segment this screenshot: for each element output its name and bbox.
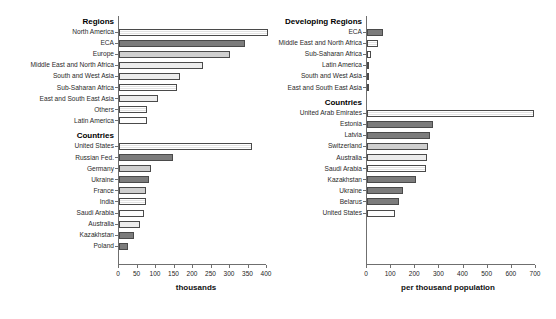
bar-label: Poland: [0, 242, 114, 249]
bar: [119, 176, 149, 183]
x-axis-tick: [438, 265, 439, 268]
y-axis-tick: [363, 65, 366, 66]
y-axis-tick: [115, 65, 118, 66]
bar-label: Australia: [182, 154, 362, 161]
y-axis-tick: [363, 87, 366, 88]
bar-label: Middle East and North Africa: [0, 61, 114, 68]
x-axis-title: per thousand population: [378, 283, 518, 292]
group-title-regions: Regions: [0, 18, 114, 26]
bar: [119, 73, 180, 80]
bar: [367, 73, 369, 80]
x-axis-tick: [211, 265, 212, 268]
bar-label: United States: [182, 209, 362, 216]
x-axis-tick: [118, 265, 119, 268]
y-axis-tick: [363, 32, 366, 33]
bar-label: Ukraine: [0, 176, 114, 183]
x-axis-tick-label: 600: [499, 270, 523, 277]
y-axis-tick: [115, 76, 118, 77]
y-axis-tick: [115, 179, 118, 180]
bar: [119, 165, 151, 172]
bar: [367, 154, 427, 161]
bar-label: Saudi Arabia: [0, 209, 114, 216]
bar-label: India: [0, 198, 114, 205]
bar-label: Kazakhstan: [0, 231, 114, 238]
bar-label: Middle East and North Africa: [182, 39, 362, 46]
chart-panel-right: 0100200300400500600700per thousand popul…: [286, 0, 556, 319]
bar: [119, 232, 134, 239]
bar-label: Latin America: [182, 61, 362, 68]
x-axis-tick: [366, 265, 367, 268]
x-axis-tick: [390, 265, 391, 268]
bar: [367, 29, 383, 36]
bar-label: Russian Fed.: [0, 154, 114, 161]
bar: [367, 187, 403, 194]
bar: [367, 51, 371, 58]
bar: [367, 121, 433, 128]
bar: [119, 210, 144, 217]
x-axis-tick: [511, 265, 512, 268]
y-axis-tick: [115, 246, 118, 247]
y-axis-tick: [363, 201, 366, 202]
y-axis-tick: [363, 124, 366, 125]
x-axis-tick: [248, 265, 249, 268]
figure-root: 050100150200250300350400thousandsRegions…: [0, 0, 556, 319]
bar-label: Europe: [0, 50, 114, 57]
y-axis-tick: [363, 168, 366, 169]
y-axis-tick: [363, 213, 366, 214]
x-axis-line: [366, 264, 535, 265]
y-axis-tick: [115, 54, 118, 55]
bar: [119, 187, 146, 194]
x-axis-tick-label: 400: [254, 270, 278, 277]
bar-label: Kazakhstan: [182, 176, 362, 183]
bar-label: United Arab Emirates: [182, 109, 362, 116]
bar: [367, 132, 430, 139]
bar: [367, 110, 534, 117]
y-axis-tick: [115, 146, 118, 147]
x-axis-tick: [155, 265, 156, 268]
y-axis-tick: [115, 168, 118, 169]
y-axis-tick: [115, 120, 118, 121]
x-axis-tick-label: 700: [523, 270, 547, 277]
bar-label: Ukraine: [182, 187, 362, 194]
x-axis-tick-label: 200: [402, 270, 426, 277]
x-axis-tick: [535, 265, 536, 268]
bar: [119, 221, 140, 228]
bar-label: United States: [0, 142, 114, 149]
bar-label: East and South East Asia: [182, 84, 362, 91]
y-axis-tick: [363, 146, 366, 147]
bar: [119, 198, 146, 205]
bar: [119, 117, 147, 124]
bar-label: Latvia: [182, 131, 362, 138]
y-axis-tick: [115, 109, 118, 110]
y-axis-tick: [115, 87, 118, 88]
bar: [367, 210, 395, 217]
bar: [367, 143, 428, 150]
x-axis-tick: [266, 265, 267, 268]
y-axis-tick: [363, 157, 366, 158]
y-axis-tick: [363, 76, 366, 77]
x-axis-tick: [463, 265, 464, 268]
bar-label: North America: [0, 28, 114, 35]
y-axis-tick: [115, 43, 118, 44]
bar: [367, 176, 416, 183]
y-axis-tick: [115, 98, 118, 99]
y-axis-tick: [115, 213, 118, 214]
bar-label: Estonia: [182, 120, 362, 127]
bar-label: Australia: [0, 220, 114, 227]
y-axis-tick: [115, 224, 118, 225]
bar-label: Others: [0, 106, 114, 113]
x-axis-tick: [137, 265, 138, 268]
bar: [367, 40, 378, 47]
bar-label: France: [0, 187, 114, 194]
y-axis-tick: [115, 32, 118, 33]
bar: [367, 62, 369, 69]
bar: [119, 84, 177, 91]
bar: [119, 106, 147, 113]
bar-label: Latin America: [0, 117, 114, 124]
bar-label: Belarus: [182, 198, 362, 205]
group-title-countries: Countries: [0, 132, 114, 140]
bar: [119, 95, 158, 102]
y-axis-tick: [363, 190, 366, 191]
x-axis-tick: [192, 265, 193, 268]
y-axis-tick: [115, 235, 118, 236]
